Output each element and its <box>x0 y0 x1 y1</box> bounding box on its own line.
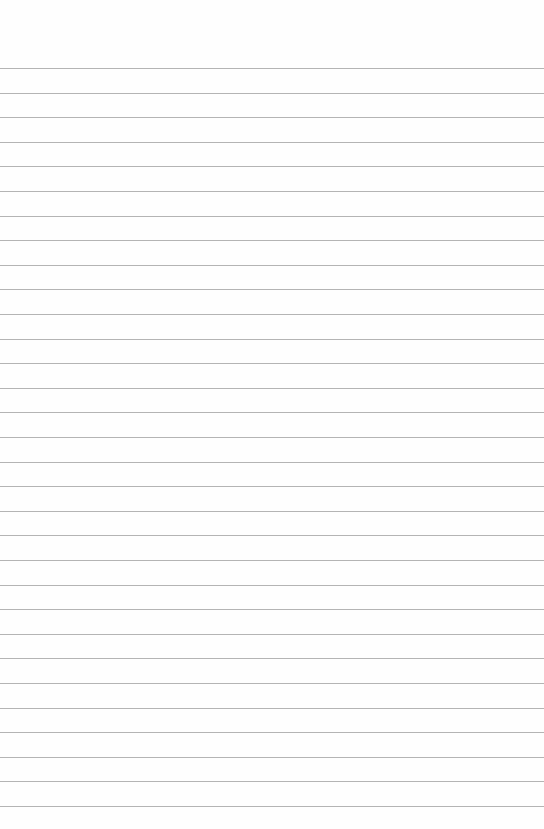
ruled-line <box>0 339 544 340</box>
ruled-line <box>0 388 544 389</box>
ruled-line <box>0 708 544 709</box>
ruled-line <box>0 634 544 635</box>
ruled-line <box>0 806 544 807</box>
ruled-line <box>0 560 544 561</box>
ruled-line <box>0 486 544 487</box>
ruled-line <box>0 68 544 69</box>
lined-paper-page <box>0 0 544 829</box>
ruled-line <box>0 683 544 684</box>
ruled-line <box>0 142 544 143</box>
ruled-line <box>0 412 544 413</box>
ruled-line <box>0 265 544 266</box>
ruled-line <box>0 511 544 512</box>
ruled-line <box>0 93 544 94</box>
ruled-line <box>0 117 544 118</box>
ruled-line <box>0 166 544 167</box>
ruled-line <box>0 314 544 315</box>
ruled-line <box>0 462 544 463</box>
ruled-line <box>0 363 544 364</box>
ruled-line <box>0 585 544 586</box>
ruled-line <box>0 609 544 610</box>
ruled-line <box>0 535 544 536</box>
ruled-line <box>0 191 544 192</box>
ruled-line <box>0 757 544 758</box>
ruled-line <box>0 289 544 290</box>
ruled-line <box>0 216 544 217</box>
ruled-line <box>0 732 544 733</box>
ruled-line <box>0 437 544 438</box>
ruled-line <box>0 658 544 659</box>
ruled-line <box>0 240 544 241</box>
ruled-line <box>0 781 544 782</box>
